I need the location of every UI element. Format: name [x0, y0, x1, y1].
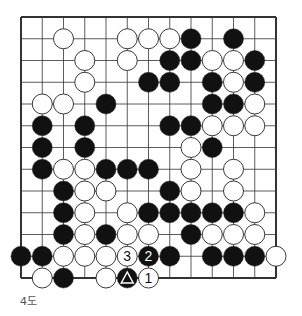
white-stone	[202, 51, 222, 71]
white-stone	[266, 246, 286, 266]
white-stone	[224, 72, 244, 92]
stone-disc	[139, 203, 159, 223]
stone-disc	[96, 181, 116, 201]
stone-disc	[54, 268, 74, 288]
white-stone	[117, 225, 137, 245]
stone-disc	[224, 72, 244, 92]
white-stone	[117, 203, 137, 223]
white-stone: 1	[139, 268, 159, 288]
white-stone	[54, 29, 74, 49]
black-stone	[139, 203, 159, 223]
stone-disc	[160, 72, 180, 92]
black-stone	[160, 72, 180, 92]
white-stone	[54, 159, 74, 179]
stone-disc	[202, 203, 222, 223]
stone-disc	[75, 181, 95, 201]
white-stone	[224, 159, 244, 179]
stone-disc	[54, 29, 74, 49]
stone-disc	[75, 203, 95, 223]
white-stone	[75, 51, 95, 71]
stone-disc	[139, 159, 159, 179]
stone-disc	[245, 225, 265, 245]
white-stone	[75, 225, 95, 245]
black-stone	[160, 203, 180, 223]
black-stone	[202, 203, 222, 223]
white-stone	[117, 29, 137, 49]
black-stone	[117, 159, 137, 179]
white-stone	[96, 268, 116, 288]
stone-disc	[181, 138, 201, 158]
white-stone	[181, 138, 201, 158]
black-stone	[160, 246, 180, 266]
move-number-label: 3	[123, 248, 131, 264]
black-stone	[32, 138, 52, 158]
black-stone	[245, 72, 265, 92]
stone-disc	[202, 72, 222, 92]
move-number-label: 1	[145, 270, 153, 286]
black-stone	[139, 72, 159, 92]
stone-disc	[96, 246, 116, 266]
black-stone	[245, 51, 265, 71]
black-stone	[160, 51, 180, 71]
stone-disc	[202, 116, 222, 136]
white-stone	[117, 51, 137, 71]
stone-disc	[117, 51, 137, 71]
stone-disc	[96, 94, 116, 114]
stone-disc	[266, 246, 286, 266]
white-stone	[75, 246, 95, 266]
white-stone	[96, 246, 116, 266]
stone-disc	[54, 203, 74, 223]
stone-disc	[139, 29, 159, 49]
stone-disc	[224, 159, 244, 179]
white-stone	[224, 51, 244, 71]
stone-disc	[96, 225, 116, 245]
diagram-caption: 4도	[20, 292, 37, 308]
stone-disc	[160, 29, 180, 49]
stone-disc	[160, 246, 180, 266]
stone-disc	[224, 29, 244, 49]
white-stone: 3	[117, 246, 137, 266]
stone-disc	[75, 159, 95, 179]
stone-disc	[181, 181, 201, 201]
black-stone	[96, 225, 116, 245]
black-stone	[96, 159, 116, 179]
stone-disc	[224, 94, 244, 114]
black-stone	[181, 203, 201, 223]
black-stone	[181, 29, 201, 49]
white-stone	[75, 159, 95, 179]
stone-disc	[75, 246, 95, 266]
black-stone	[181, 116, 201, 136]
stone-disc	[117, 203, 137, 223]
stone-disc	[32, 159, 52, 179]
stone-disc	[139, 225, 159, 245]
black-stone	[224, 94, 244, 114]
black-stone	[202, 138, 222, 158]
stone-disc	[181, 29, 201, 49]
white-stone	[224, 181, 244, 201]
stone-disc	[202, 138, 222, 158]
stone-disc	[224, 51, 244, 71]
black-stone	[160, 116, 180, 136]
stone-disc	[181, 225, 201, 245]
white-stone	[96, 181, 116, 201]
black-stone	[117, 268, 137, 288]
stone-disc	[202, 94, 222, 114]
stone-disc	[54, 225, 74, 245]
stone-disc	[54, 246, 74, 266]
stone-disc	[160, 51, 180, 71]
black-stone	[54, 268, 74, 288]
move-number-label: 2	[145, 248, 153, 264]
black-stone	[32, 116, 52, 136]
stone-disc	[75, 116, 95, 136]
white-stone	[224, 116, 244, 136]
black-stone	[32, 159, 52, 179]
stone-disc	[245, 246, 265, 266]
black-stone	[224, 29, 244, 49]
stone-disc	[181, 203, 201, 223]
stone-disc	[96, 159, 116, 179]
black-stone	[160, 181, 180, 201]
white-stone	[32, 94, 52, 114]
black-stone	[54, 225, 74, 245]
stone-disc	[160, 116, 180, 136]
stone-disc	[11, 246, 31, 266]
